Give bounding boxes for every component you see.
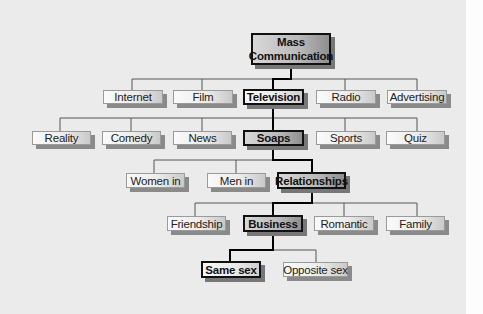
node-same-sex: Same sex xyxy=(201,261,261,278)
node-mass-communication: Mass Communication xyxy=(251,33,331,65)
node-soaps: Soaps xyxy=(243,130,304,146)
node-label: Mass xyxy=(277,35,305,49)
node-opposite-sex: Opposite sex xyxy=(283,262,348,277)
node-romantic: Romantic xyxy=(314,216,374,231)
node-friendship: Friendship xyxy=(167,216,226,231)
node-sports: Sports xyxy=(316,131,376,145)
node-news: News xyxy=(173,131,232,145)
node-family: Family xyxy=(386,216,445,231)
node-film: Film xyxy=(173,90,233,104)
node-advertising: Advertising xyxy=(387,90,447,104)
node-women-in: Women in xyxy=(126,173,185,188)
node-television: Television xyxy=(243,89,304,105)
node-radio: Radio xyxy=(316,90,376,104)
node-quiz: Quiz xyxy=(386,131,445,145)
node-men-in: Men in xyxy=(207,173,266,188)
node-business: Business xyxy=(243,215,303,232)
node-internet: Internet xyxy=(103,90,163,104)
node-reality: Reality xyxy=(32,131,91,145)
node-comedy: Comedy xyxy=(102,131,161,145)
node-label: Communication xyxy=(249,49,333,63)
node-relationships: Relationships xyxy=(277,172,346,189)
